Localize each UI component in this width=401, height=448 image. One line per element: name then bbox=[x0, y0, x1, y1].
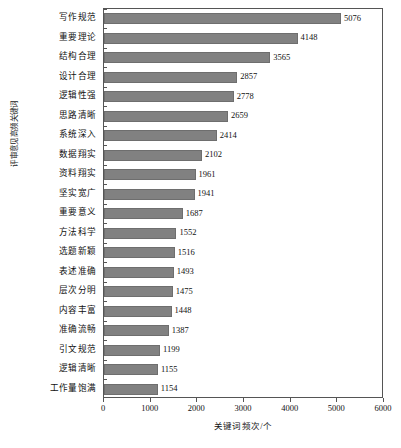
bar-value-label: 1155 bbox=[161, 363, 178, 376]
bar-value-label: 5076 bbox=[344, 12, 361, 25]
bar bbox=[104, 13, 341, 24]
bar-row: 1961 bbox=[104, 165, 382, 186]
category-label: 层次分明 bbox=[0, 284, 96, 297]
category-label: 重要理论 bbox=[0, 31, 96, 44]
y-axis-tick bbox=[103, 48, 107, 49]
category-label: 资料翔实 bbox=[0, 167, 96, 180]
x-axis-tick bbox=[150, 398, 151, 402]
category-label: 选题新颖 bbox=[0, 245, 96, 258]
bar-row: 2414 bbox=[104, 126, 382, 147]
y-axis-tick bbox=[103, 184, 107, 185]
y-axis-tick bbox=[103, 340, 107, 341]
y-axis-tick bbox=[103, 204, 107, 205]
category-label-axis: 写作规范重要理论结构合理设计合理逻辑性强思路清晰系统深入数据翔实资料翔实坚实宽广… bbox=[0, 8, 101, 398]
bar bbox=[104, 72, 237, 83]
category-label: 坚实宽广 bbox=[0, 187, 96, 200]
bar-row: 1448 bbox=[104, 302, 382, 323]
y-axis-tick bbox=[103, 379, 107, 380]
bar-value-label: 2414 bbox=[220, 129, 237, 142]
category-label: 逻辑清晰 bbox=[0, 362, 96, 375]
bar bbox=[104, 247, 175, 258]
bar-value-label: 3565 bbox=[273, 51, 290, 64]
bar-value-label: 1961 bbox=[199, 168, 216, 181]
x-axis-tick-label: 4000 bbox=[281, 403, 298, 413]
y-axis-tick bbox=[103, 106, 107, 107]
bar-row: 3565 bbox=[104, 48, 382, 69]
bar bbox=[104, 169, 196, 180]
y-axis-tick bbox=[103, 126, 107, 127]
bar-row: 2778 bbox=[104, 87, 382, 108]
category-label: 数据翔实 bbox=[0, 148, 96, 161]
category-label: 工作量饱满 bbox=[0, 382, 96, 395]
x-axis-tick bbox=[196, 398, 197, 402]
bar-row: 5076 bbox=[104, 9, 382, 30]
category-label: 系统深入 bbox=[0, 128, 96, 141]
bar-value-label: 1475 bbox=[176, 285, 193, 298]
bar-value-label: 1687 bbox=[186, 207, 203, 220]
bar bbox=[104, 111, 228, 122]
category-label: 结构合理 bbox=[0, 50, 96, 63]
bar-value-label: 1941 bbox=[198, 187, 215, 200]
bar bbox=[104, 150, 202, 161]
bar-value-label: 1493 bbox=[177, 265, 194, 278]
bar bbox=[104, 189, 195, 200]
bar-row: 2102 bbox=[104, 146, 382, 167]
bar-row: 1552 bbox=[104, 224, 382, 245]
bar-value-label: 4148 bbox=[301, 31, 318, 44]
bar-value-label: 2659 bbox=[231, 109, 248, 122]
bar-row: 1493 bbox=[104, 263, 382, 284]
bar-row: 1941 bbox=[104, 185, 382, 206]
category-label: 内容丰富 bbox=[0, 304, 96, 317]
bar-value-label: 1154 bbox=[161, 382, 178, 395]
x-axis-tick-label: 3000 bbox=[235, 403, 252, 413]
category-label: 表述准确 bbox=[0, 265, 96, 278]
bar bbox=[104, 364, 158, 375]
bar bbox=[104, 306, 172, 317]
bar bbox=[104, 325, 169, 336]
y-axis-tick bbox=[103, 145, 107, 146]
y-axis-tick bbox=[103, 282, 107, 283]
x-axis-title: 关键词频次/个 bbox=[103, 419, 383, 431]
bar-value-label: 2778 bbox=[237, 90, 254, 103]
bar-row: 4148 bbox=[104, 29, 382, 50]
y-axis-tick bbox=[103, 165, 107, 166]
x-axis-tick-label: 2000 bbox=[188, 403, 205, 413]
x-axis-tick-label: 1000 bbox=[141, 403, 158, 413]
bar-row: 2659 bbox=[104, 107, 382, 128]
x-axis-ticks: 0100020003000400050006000 bbox=[0, 398, 401, 418]
category-label: 准确流畅 bbox=[0, 323, 96, 336]
x-axis-tick bbox=[336, 398, 337, 402]
bar-chart: 评审意见高频关键词 写作规范重要理论结构合理设计合理逻辑性强思路清晰系统深入数据… bbox=[0, 0, 401, 448]
bar bbox=[104, 208, 183, 219]
bar-row: 1199 bbox=[104, 341, 382, 362]
bar-row: 1387 bbox=[104, 321, 382, 342]
y-axis-tick bbox=[103, 243, 107, 244]
x-axis-tick bbox=[290, 398, 291, 402]
bar-row: 1155 bbox=[104, 360, 382, 381]
bar-row: 1475 bbox=[104, 282, 382, 303]
plot-area: 5076414835652857277826592414210219611941… bbox=[103, 8, 383, 398]
y-axis-tick bbox=[103, 262, 107, 263]
bar-value-label: 1199 bbox=[163, 343, 180, 356]
category-label: 写作规范 bbox=[0, 11, 96, 24]
bar-value-label: 1516 bbox=[178, 246, 195, 259]
bar bbox=[104, 286, 173, 297]
x-axis-tick bbox=[243, 398, 244, 402]
bar-value-label: 1448 bbox=[175, 304, 192, 317]
bar-value-label: 1552 bbox=[179, 226, 196, 239]
category-label: 方法科学 bbox=[0, 226, 96, 239]
bar bbox=[104, 384, 158, 395]
x-axis-tick-label: 0 bbox=[101, 403, 105, 413]
bar-value-label: 1387 bbox=[172, 324, 189, 337]
x-axis-tick bbox=[103, 398, 104, 402]
category-label: 思路清晰 bbox=[0, 109, 96, 122]
category-label: 重要意义 bbox=[0, 206, 96, 219]
bar bbox=[104, 33, 298, 44]
y-axis-tick bbox=[103, 321, 107, 322]
bar bbox=[104, 130, 217, 141]
bar bbox=[104, 267, 174, 278]
bar-row: 1154 bbox=[104, 380, 382, 401]
x-axis-tick bbox=[383, 398, 384, 402]
y-axis-tick bbox=[103, 87, 107, 88]
bar bbox=[104, 52, 270, 63]
